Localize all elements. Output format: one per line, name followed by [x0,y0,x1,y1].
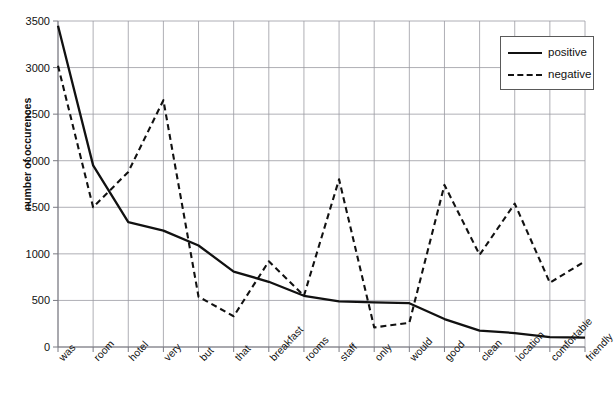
x-tick-label: room [91,337,116,363]
legend-label-negative: negative [548,69,591,81]
x-tick-label: good [442,338,467,363]
x-tick-label: but [197,344,216,363]
legend-line-dashed-icon [508,74,542,76]
legend-label-positive: positive [548,47,587,59]
x-tick-label: would [407,335,434,363]
x-tick-label: that [232,342,253,363]
x-tick-label: rooms [302,334,331,364]
x-tick-label: was [56,341,78,363]
x-tick-label: staff [337,341,359,364]
x-tick-label: only [372,341,394,363]
x-tick-label: location [513,329,546,364]
legend-item-negative: negative [508,66,591,84]
x-tick-label: friendly [583,330,615,363]
x-tick-label: very [161,340,183,363]
x-tick-label: breakfast [267,323,305,363]
x-tick-label: hotel [126,338,150,363]
chart-legend: positive negative [500,36,594,90]
legend-line-solid-icon [508,52,542,54]
x-tick-label: clean [478,337,504,364]
legend-item-positive: positive [508,44,587,62]
